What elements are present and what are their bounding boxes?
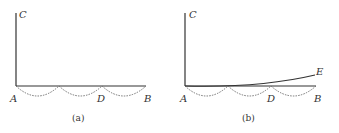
label-a: A [9, 93, 17, 104]
label-e: E [315, 66, 324, 77]
dashed-arcs [185, 86, 316, 96]
label-c: C [189, 9, 197, 20]
curve-ae [185, 75, 315, 86]
label-c: C [19, 9, 27, 20]
label-d: D [266, 93, 275, 104]
label-b: B [313, 93, 321, 104]
label-a: A [179, 93, 187, 104]
diagram-canvas: C A D B (a) C A D B E (b) [0, 0, 339, 133]
panel-a: C A D B (a) [9, 9, 151, 123]
caption-a: (a) [72, 113, 84, 123]
panel-b: C A D B E (b) [179, 9, 324, 123]
caption-b: (b) [242, 113, 255, 123]
dashed-arcs [16, 86, 146, 96]
label-d: D [96, 93, 105, 104]
label-b: B [143, 93, 151, 104]
